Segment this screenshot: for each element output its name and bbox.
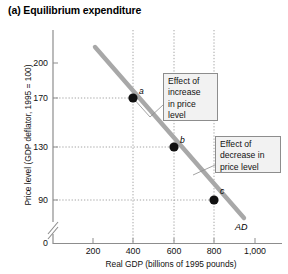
annotation-decrease-price-level: Effect of decrease in price level	[215, 136, 281, 173]
annotation-line: Effect of	[220, 139, 277, 150]
annotation-line: price level	[220, 162, 277, 173]
y-axis-ticks	[53, 63, 58, 200]
data-point-label-c: c	[220, 186, 224, 196]
annotation-line: increase	[168, 87, 214, 98]
annotation-line: Effect of	[168, 76, 214, 87]
annotation-line: level	[168, 110, 214, 121]
data-point-label-b: b	[180, 135, 185, 145]
data-point-b[interactable]	[169, 142, 178, 151]
data-point-c[interactable]	[209, 195, 218, 204]
annotation-line: in price	[168, 99, 214, 110]
annotation-increase-price-level: Effect of increase in price level	[163, 73, 218, 121]
annotation-line: decrease in	[220, 150, 277, 161]
data-point-label-a: a	[139, 86, 144, 96]
data-point-a[interactable]	[128, 93, 137, 102]
ad-curve-label: AD	[235, 222, 248, 232]
figure-panel: (a) Equilibrium expenditure Price level …	[0, 0, 288, 274]
guide-lines	[53, 30, 214, 243]
